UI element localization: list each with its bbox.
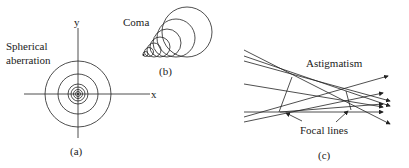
aberrations-diagram: Spherical aberration y (a) Coma (b) Asti…	[0, 0, 409, 168]
focal-pointer-arrow	[336, 111, 348, 122]
ray	[244, 84, 383, 107]
focal-line	[279, 77, 292, 112]
panel-coma: Coma (b)	[123, 7, 212, 78]
coma-vertex	[143, 54, 145, 56]
focal-lines-label: Focal lines	[300, 124, 348, 136]
caption-a: (a)	[70, 145, 83, 158]
astigmatism-label: Astigmatism	[306, 57, 363, 69]
spherical-center	[77, 93, 79, 95]
spherical-label-line1: Spherical	[6, 40, 48, 52]
spherical-label-line2: aberration	[6, 54, 51, 66]
caption-b: (b)	[159, 65, 172, 78]
y-axis-label: y	[74, 16, 80, 28]
coma-label: Coma	[123, 16, 149, 28]
panel-spherical-aberration: Spherical aberration y (a)	[6, 16, 150, 158]
caption-c: (c)	[318, 149, 331, 162]
x-axis-label: x	[151, 88, 157, 100]
focal-pointer-arrow	[286, 113, 302, 121]
ray	[280, 104, 383, 112]
coma-circle	[153, 29, 181, 57]
panel-astigmatism: Astigmatism Focal lines (c)	[244, 50, 390, 162]
